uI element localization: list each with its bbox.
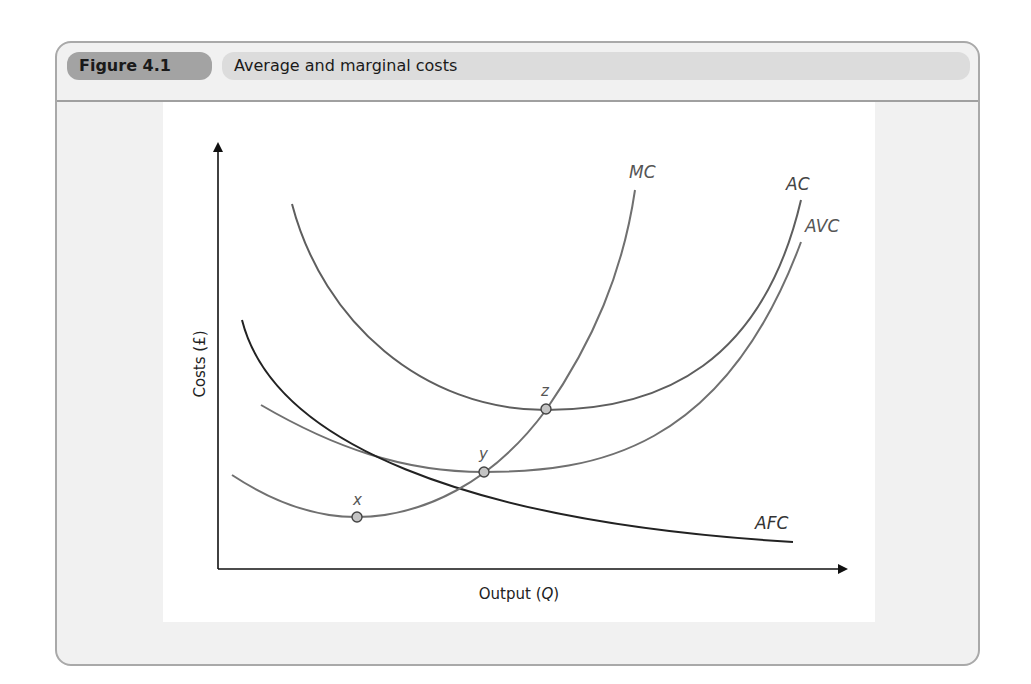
figure-title: Average and marginal costs — [222, 52, 970, 80]
figure-card: Figure 4.1 Average and marginal costs — [55, 41, 980, 666]
point-z — [541, 404, 551, 414]
point-x-label: x — [352, 491, 362, 509]
y-axis-title: Costs (£) — [191, 330, 209, 397]
cost-curves-chart: x y z MC AC AVC AFC Output (Q) Costs (£) — [163, 102, 875, 622]
avc-label: AVC — [804, 216, 839, 236]
x-axis-title: Output (Q) — [479, 585, 559, 603]
point-y — [479, 467, 489, 477]
point-x — [352, 512, 362, 522]
point-y-label: y — [478, 445, 489, 463]
afc-curve — [242, 320, 793, 542]
ac-label: AC — [785, 174, 810, 194]
figure-number: Figure 4.1 — [67, 52, 212, 80]
mc-label: MC — [629, 162, 656, 182]
point-z-label: z — [540, 382, 550, 400]
figure-header: Figure 4.1 Average and marginal costs — [57, 43, 978, 91]
plot-area: x y z MC AC AVC AFC Output (Q) Costs (£) — [163, 102, 875, 622]
afc-label: AFC — [754, 513, 788, 533]
